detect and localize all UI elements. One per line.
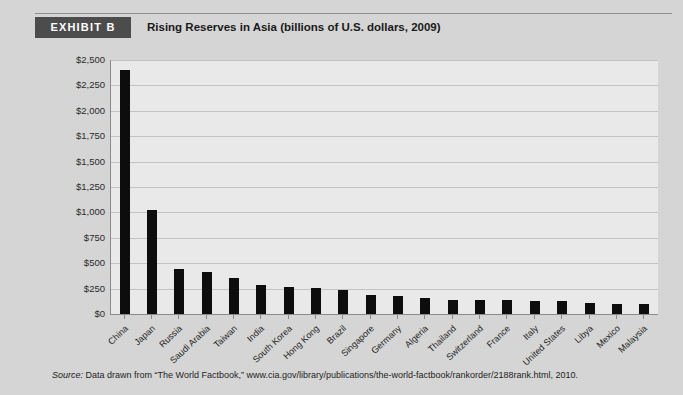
x-axis-tick: [411, 314, 438, 322]
x-axis-tick: [192, 314, 219, 322]
x-axis-label: Brazil: [326, 324, 349, 346]
x-axis-tick: [602, 314, 629, 322]
bar: [502, 300, 512, 314]
bar-slot: [521, 60, 548, 314]
bar: [338, 290, 348, 314]
bar-slot: [111, 60, 138, 314]
source-label: Source:: [52, 370, 83, 380]
bar-series: [111, 60, 658, 314]
bar: [612, 304, 622, 314]
bar-slot: [220, 60, 247, 314]
x-axis-tick: [520, 314, 547, 322]
y-axis-tick-label: $1,250: [76, 182, 111, 192]
exhibit-badge: EXHIBIT B: [35, 17, 131, 38]
y-axis-tick-label: $1,500: [76, 157, 111, 167]
bar-slot: [275, 60, 302, 314]
bar: [174, 269, 184, 314]
bar-slot: [302, 60, 329, 314]
bar-slot: [248, 60, 275, 314]
x-axis-label: Italy: [522, 324, 540, 342]
x-axis-tick: [247, 314, 274, 322]
y-axis-tick-label: $0: [94, 309, 111, 319]
x-axis-tick: [630, 314, 657, 322]
bar: [393, 296, 403, 314]
x-axis-label: China: [106, 324, 129, 347]
bar: [475, 300, 485, 314]
y-axis-tick-label: $2,500: [76, 55, 111, 65]
x-axis-label: Japan: [133, 324, 157, 347]
x-axis-tick: [356, 314, 383, 322]
x-axis-tick: [329, 314, 356, 322]
x-axis-label: India: [246, 324, 266, 344]
y-axis-tick-label: $750: [84, 233, 111, 243]
bar-slot: [412, 60, 439, 314]
bar: [448, 300, 458, 314]
bar-slot: [603, 60, 630, 314]
x-axis-tick: [301, 314, 328, 322]
bar-slot: [384, 60, 411, 314]
y-axis-tick-label: $1,000: [76, 208, 111, 218]
bar: [420, 298, 430, 314]
bar-slot: [631, 60, 658, 314]
page-title: Rising Reserves in Asia (billions of U.S…: [147, 21, 441, 33]
x-axis-ticks: [110, 314, 657, 322]
x-axis-tick: [465, 314, 492, 322]
x-axis-tick: [493, 314, 520, 322]
bar: [585, 303, 595, 314]
bar: [120, 70, 130, 314]
bar-slot: [138, 60, 165, 314]
y-axis-tick-label: $1,750: [76, 131, 111, 141]
bar-slot: [330, 60, 357, 314]
x-axis-tick: [575, 314, 602, 322]
bar: [256, 285, 266, 314]
x-axis-tick: [110, 314, 137, 322]
y-axis-tick-label: $2,000: [76, 106, 111, 116]
plot-area: $2,500$2,250$2,000$1,750$1,500$1,250$1,0…: [110, 60, 658, 315]
source-text: Data drawn from “The World Factbook,” ww…: [83, 370, 578, 380]
bar-slot: [357, 60, 384, 314]
x-axis-tick: [274, 314, 301, 322]
x-axis-tick: [219, 314, 246, 322]
x-axis-tick: [548, 314, 575, 322]
x-axis-tick: [383, 314, 410, 322]
bar-slot: [494, 60, 521, 314]
bar: [311, 288, 321, 314]
y-axis-tick-label: $250: [84, 284, 111, 294]
bar: [366, 295, 376, 314]
exhibit-header: EXHIBIT B Rising Reserves in Asia (billi…: [35, 16, 675, 38]
bar: [202, 272, 212, 314]
bar: [229, 278, 239, 314]
bar-slot: [439, 60, 466, 314]
bar: [557, 301, 567, 314]
source-note: Source: Data drawn from “The World Factb…: [52, 370, 672, 381]
x-axis-tick: [137, 314, 164, 322]
chart-container: $2,500$2,250$2,000$1,750$1,500$1,250$1,0…: [35, 46, 672, 356]
y-axis-tick-label: $500: [84, 258, 111, 268]
x-axis-label: Libya: [573, 324, 595, 345]
bar: [147, 210, 157, 314]
bar-slot: [193, 60, 220, 314]
bar-slot: [576, 60, 603, 314]
bar: [530, 301, 540, 314]
bar: [284, 287, 294, 314]
bar-slot: [166, 60, 193, 314]
bar-slot: [549, 60, 576, 314]
x-axis-tick: [438, 314, 465, 322]
x-axis-tick: [165, 314, 192, 322]
bar: [639, 304, 649, 314]
header-top-rule: [35, 13, 672, 14]
y-axis-tick-label: $2,250: [76, 81, 111, 91]
bar-slot: [466, 60, 493, 314]
